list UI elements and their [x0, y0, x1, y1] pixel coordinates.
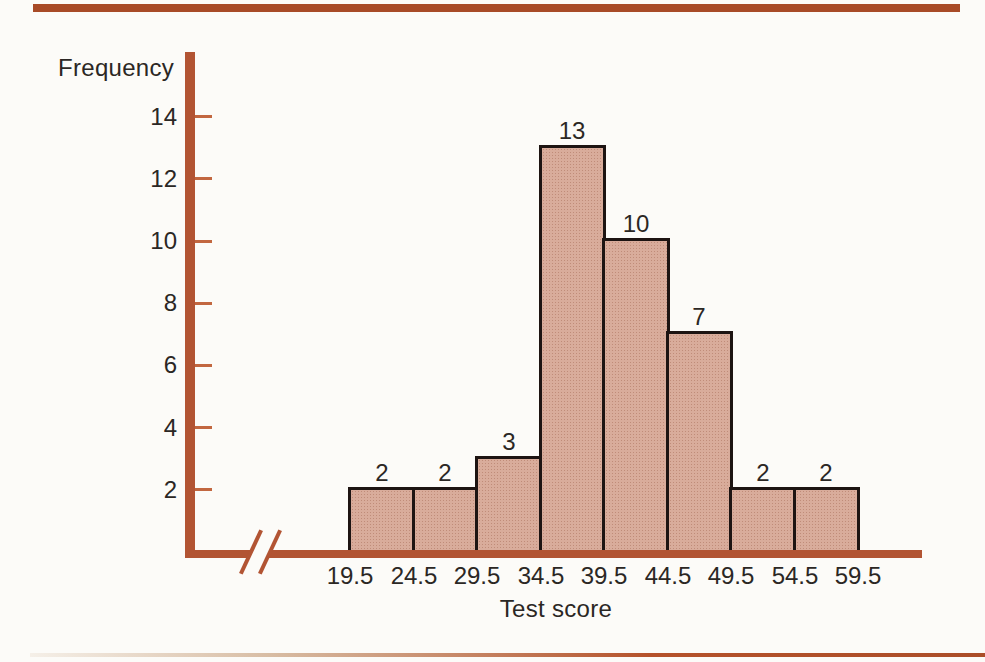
bar-value-label: 13	[540, 118, 604, 144]
y-tick-label: 14	[97, 104, 177, 130]
x-tick-label: 59.5	[818, 563, 898, 589]
histogram-bar	[793, 487, 860, 552]
histogram-bar	[475, 456, 543, 552]
y-axis-tick	[195, 240, 212, 243]
bar-value-label: 2	[731, 460, 795, 486]
y-tick-label: 2	[97, 477, 177, 503]
y-tick-label: 12	[97, 166, 177, 192]
y-axis-tick	[195, 364, 212, 367]
bottom-border-rule	[30, 653, 985, 657]
top-border-rule	[33, 4, 960, 12]
bar-value-label: 10	[604, 211, 668, 237]
histogram-bar	[348, 487, 416, 552]
y-axis-tick	[195, 302, 212, 305]
y-axis-tick	[195, 177, 212, 180]
x-axis-line	[185, 550, 922, 558]
histogram-bar	[666, 331, 733, 552]
bar-value-label: 2	[794, 460, 858, 486]
y-axis-tick	[195, 426, 212, 429]
histogram-bar	[729, 487, 797, 552]
bar-value-label: 7	[667, 304, 731, 330]
y-axis-tick	[195, 115, 212, 118]
bar-value-label: 2	[350, 460, 414, 486]
y-axis-tick	[195, 488, 212, 491]
histogram-bar	[412, 487, 479, 552]
y-tick-label: 4	[97, 415, 177, 441]
histogram-bar	[602, 238, 670, 552]
y-tick-label: 10	[97, 228, 177, 254]
book-page: Frequency 2468101214 2231310722 19.524.5…	[0, 0, 985, 662]
y-tick-label: 8	[97, 290, 177, 316]
y-axis-line	[185, 52, 195, 558]
y-tick-label: 6	[97, 352, 177, 378]
bar-value-label: 2	[413, 460, 477, 486]
x-axis-title: Test score	[495, 595, 617, 623]
histogram-bar	[539, 145, 606, 552]
bar-value-label: 3	[477, 429, 541, 455]
y-axis-title: Frequency	[58, 54, 174, 82]
